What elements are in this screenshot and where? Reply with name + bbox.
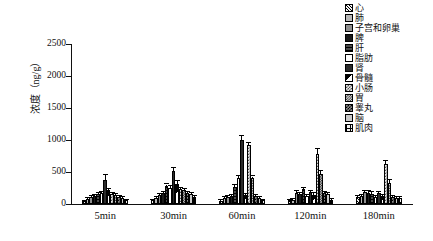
error-bar xyxy=(248,143,249,145)
legend-label: 肺 xyxy=(355,14,364,23)
bar xyxy=(261,200,265,204)
error-bar xyxy=(327,193,328,194)
error-bar xyxy=(262,200,263,201)
error-bar-cap xyxy=(376,191,381,192)
legend-swatch-icon xyxy=(345,74,353,82)
error-bar xyxy=(108,189,109,191)
error-bar xyxy=(177,181,178,183)
legend-label: 肾 xyxy=(355,64,364,73)
error-bar xyxy=(313,193,314,194)
y-axis-tick-label: 2500 xyxy=(47,39,66,49)
legend-label: 睾丸 xyxy=(355,104,373,113)
error-bar-cap xyxy=(106,188,111,189)
error-bar xyxy=(173,168,174,171)
error-bar xyxy=(259,197,260,198)
legend-item: 脑 xyxy=(345,113,433,123)
legend-swatch-icon xyxy=(345,34,353,42)
error-bar-cap xyxy=(250,175,255,176)
x-axis-tick-label: 5min xyxy=(94,210,116,221)
error-bar-cap xyxy=(397,196,402,197)
error-bar-cap xyxy=(182,188,187,189)
error-bar-cap xyxy=(246,142,251,143)
error-bar xyxy=(320,171,321,174)
error-bar-cap xyxy=(329,198,334,199)
bar-chart: 浓度（ng/g） 05001000150020002500 5min30min6… xyxy=(0,0,433,241)
legend-item: 肺 xyxy=(345,13,433,23)
error-bar-cap xyxy=(175,180,180,181)
legend-item: 脂肪 xyxy=(345,53,433,63)
error-bar xyxy=(220,200,221,201)
legend-item: 肌肉 xyxy=(345,123,433,133)
error-bar xyxy=(382,195,383,196)
x-axis-line xyxy=(71,204,413,205)
legend-swatch-icon xyxy=(345,14,353,22)
error-bar xyxy=(245,194,246,195)
legend-item: 肾 xyxy=(345,63,433,73)
legend-item: 心 xyxy=(345,3,433,13)
chart-legend: 心肺子宫和卵巢脾肝脂肪肾骨髓小肠胃睾丸脑肌肉 xyxy=(345,3,433,133)
error-bar xyxy=(303,188,304,190)
y-axis-tick-labels: 05001000150020002500 xyxy=(22,44,66,204)
legend-item: 骨髓 xyxy=(345,73,433,83)
error-bar-cap xyxy=(260,199,265,200)
x-axis-tick-label: 60min xyxy=(229,210,256,221)
error-bar xyxy=(105,175,106,180)
error-bar-cap xyxy=(189,192,194,193)
legend-label: 小肠 xyxy=(355,84,373,93)
y-axis-tick-label: 2000 xyxy=(47,71,66,81)
legend-label: 子宫和卵巢 xyxy=(355,24,400,33)
legend-swatch-icon xyxy=(345,54,353,62)
legend-item: 小肠 xyxy=(345,83,433,93)
error-bar-cap xyxy=(383,160,388,161)
bar xyxy=(398,198,402,204)
legend-item: 脾 xyxy=(345,33,433,43)
legend-label: 肝 xyxy=(355,44,364,53)
error-bar xyxy=(357,196,358,197)
error-bar xyxy=(224,197,225,198)
bar-group xyxy=(71,44,139,204)
bar-group xyxy=(276,44,344,204)
bar-group xyxy=(208,44,276,204)
legend-label: 肌肉 xyxy=(355,124,373,133)
error-bar xyxy=(306,195,307,196)
error-bar-cap xyxy=(325,192,330,193)
error-bar xyxy=(375,196,376,197)
legend-swatch-icon xyxy=(345,104,353,112)
legend-swatch-icon xyxy=(345,64,353,72)
error-bar xyxy=(152,200,153,201)
legend-label: 脑 xyxy=(355,114,364,123)
error-bar xyxy=(84,201,85,202)
legend-label: 心 xyxy=(355,4,364,13)
error-bar-cap xyxy=(120,196,125,197)
legend-label: 胃 xyxy=(355,94,364,103)
y-axis-tick xyxy=(66,204,71,205)
x-axis-tick-label: 30min xyxy=(160,210,187,221)
error-bar xyxy=(231,195,232,196)
error-bar-cap xyxy=(113,193,118,194)
x-axis-tick-label: 180min xyxy=(363,210,395,221)
y-axis-tick-label: 1500 xyxy=(47,103,66,113)
error-bar xyxy=(361,195,362,196)
error-bar xyxy=(385,161,386,165)
error-bar xyxy=(170,186,171,188)
bar xyxy=(330,200,334,204)
error-bar xyxy=(91,196,92,197)
error-bar xyxy=(94,195,95,196)
error-bar xyxy=(227,196,228,197)
error-bar xyxy=(241,136,242,140)
legend-label: 骨髓 xyxy=(355,74,373,83)
error-bar-cap xyxy=(308,190,313,191)
error-bar xyxy=(399,197,400,198)
error-bar xyxy=(101,192,102,193)
error-bar-cap xyxy=(257,196,262,197)
bar-group xyxy=(139,44,207,204)
legend-swatch-icon xyxy=(345,44,353,52)
legend-swatch-icon xyxy=(345,114,353,122)
error-bar xyxy=(98,193,99,194)
legend-item: 肝 xyxy=(345,43,433,53)
error-bar xyxy=(163,192,164,193)
error-bar-cap xyxy=(124,199,129,200)
legend-swatch-icon xyxy=(345,4,353,12)
legend-swatch-icon xyxy=(345,124,353,132)
error-bar xyxy=(292,199,293,200)
